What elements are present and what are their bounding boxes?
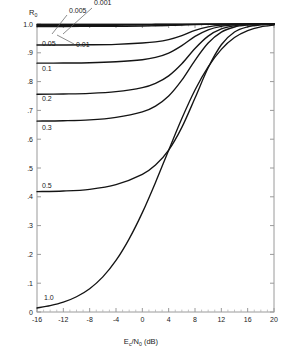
y-tick-label: .7 <box>27 107 33 114</box>
curve-label: 0.001 <box>94 0 112 6</box>
y-tick-label: .4 <box>27 193 33 200</box>
x-axis-title-unit: (dB) <box>142 337 159 346</box>
x-tick-label: 16 <box>244 316 252 323</box>
x-tick-label: 0 <box>140 316 144 323</box>
y-tick-label: .9 <box>27 49 33 56</box>
x-tick-label: 4 <box>167 316 171 323</box>
x-axis-title-slash: /N <box>131 337 139 346</box>
curve-label: 0.1 <box>42 65 52 72</box>
x-tick-label: -4 <box>113 316 119 323</box>
y-axis-title-subscript: 0 <box>34 12 37 18</box>
x-tick-label: 8 <box>193 316 197 323</box>
cutoff-rate-plot: -16-12-8-4048121620 0.1.2.3.4.5.6.7.8.91… <box>0 0 288 350</box>
y-tick-label: .6 <box>27 136 33 143</box>
x-tick-label: -16 <box>32 316 42 323</box>
curve-label: 0.3 <box>42 124 52 131</box>
x-tick-label: 12 <box>217 316 225 323</box>
curve-label: 0.01 <box>76 41 90 48</box>
curve-label: 0.5 <box>42 182 52 189</box>
y-tick-label: .5 <box>27 165 33 172</box>
y-tick-label: 1.0 <box>23 21 33 28</box>
chart-figure: -16-12-8-4048121620 0.1.2.3.4.5.6.7.8.91… <box>0 0 288 350</box>
curve-label: 0.005 <box>69 7 87 14</box>
curve-label: 0.05 <box>42 40 56 47</box>
curve-label: 1.0 <box>44 294 54 301</box>
y-tick-label: 0 <box>29 309 33 316</box>
x-tick-label: 20 <box>270 316 278 323</box>
x-tick-label: -12 <box>58 316 68 323</box>
x-tick-label: -8 <box>87 316 93 323</box>
y-tick-label: .2 <box>27 251 33 258</box>
y-tick-label: .8 <box>27 78 33 85</box>
y-tick-label: .1 <box>27 280 33 287</box>
y-tick-label: .3 <box>27 222 33 229</box>
curve-label: 0.2 <box>42 95 52 102</box>
